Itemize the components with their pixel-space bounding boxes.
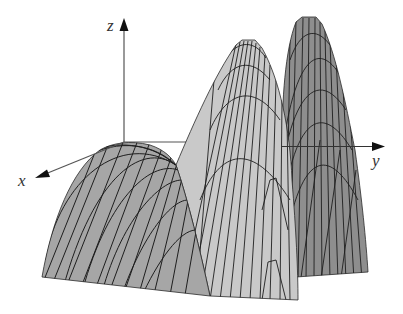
z-axis-label: z xyxy=(107,17,114,34)
surface-plot xyxy=(0,0,403,314)
z-axis-arrow-icon xyxy=(120,18,129,31)
z-axis xyxy=(120,18,129,142)
y-axis-label: y xyxy=(372,152,380,169)
x-axis-label: x xyxy=(18,172,26,189)
x-axis-arrow-icon xyxy=(35,170,50,179)
y-axis-arrow-icon xyxy=(372,142,385,151)
